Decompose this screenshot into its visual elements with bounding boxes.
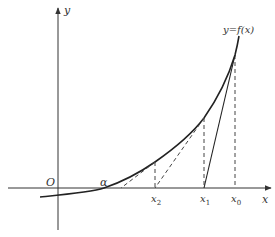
root-label-alpha: α xyxy=(100,176,108,189)
tangent-at-x0 xyxy=(204,55,235,188)
x1-label: x1 xyxy=(200,193,210,207)
curve-label: y=f(x) xyxy=(222,24,254,35)
origin-label: O xyxy=(46,176,55,189)
curve-f xyxy=(40,36,239,197)
x2-label: x2 xyxy=(151,193,161,207)
newton-method-diagram: y x O α y=f(x) x2 x1 x0 xyxy=(0,0,275,237)
y-axis-label: y xyxy=(63,4,71,17)
x0-label: x0 xyxy=(231,193,241,207)
x-axis-label: x xyxy=(262,193,269,206)
tangent-at-x1 xyxy=(155,118,204,188)
